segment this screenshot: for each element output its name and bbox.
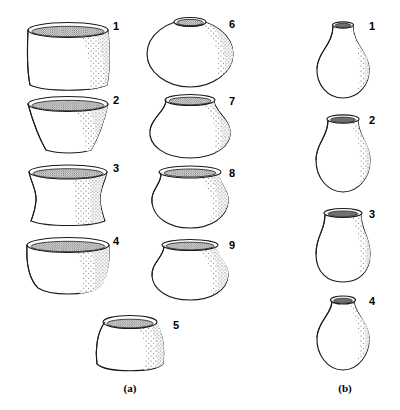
vessel-number-a7: 7 [229,95,235,107]
vessel-number-a6: 6 [229,18,235,30]
vessel-number-b4: 4 [369,295,376,307]
vessel-a1-straight-sided-jar: 1 [27,20,119,92]
vessel-number-a9: 9 [229,239,235,251]
vessel-number-a2: 2 [113,94,119,106]
panel-label-a: (a) [124,382,137,395]
vessel-number-b3: 3 [369,208,375,220]
figure-container: 1 2 3 [0,0,400,410]
vessel-number-a3: 3 [113,162,119,174]
panel-label-b: (b) [338,382,352,395]
vessel-number-b1: 1 [369,20,375,32]
vessel-typology-figure: 1 2 3 [0,0,400,410]
vessel-number-a8: 8 [229,167,235,179]
vessel-number-a1: 1 [113,20,119,32]
vessel-number-a5: 5 [173,319,179,331]
vessel-number-a4: 4 [113,235,120,247]
vessel-number-b2: 2 [369,114,375,126]
